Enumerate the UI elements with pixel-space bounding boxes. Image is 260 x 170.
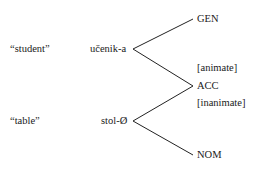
case-nom: NOM (197, 149, 222, 161)
edge-stol-acc (133, 86, 193, 121)
form-stol-null: stol-Ø (101, 115, 127, 127)
gloss-table: “table” (10, 115, 40, 127)
case-gen: GEN (197, 13, 219, 25)
feature-animate: [animate] (197, 62, 237, 74)
form-ucenik-a: učenik-a (90, 43, 126, 55)
gloss-student: “student” (10, 43, 50, 55)
branch-lines (0, 0, 260, 170)
edge-ucenik-gen (133, 19, 193, 49)
edge-stol-nom (133, 121, 193, 155)
feature-inanimate: [inanimate] (197, 97, 245, 109)
edge-ucenik-acc (133, 49, 193, 86)
case-acc: ACC (197, 80, 219, 92)
